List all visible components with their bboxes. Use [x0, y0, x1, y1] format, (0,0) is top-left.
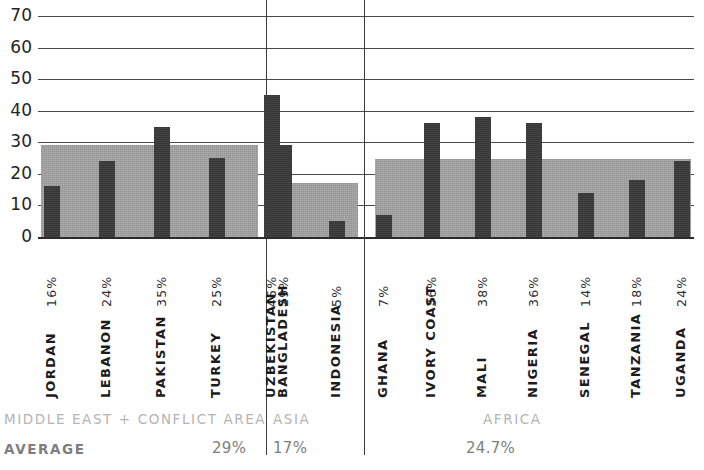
region-name-africa: AFRICA: [483, 411, 542, 427]
category-label-indonesia: INDONESIA: [329, 248, 343, 398]
bar-jordan[interactable]: [44, 186, 60, 237]
bar-ghana[interactable]: [376, 215, 392, 237]
category-label-bangladesh: BANGLADESH: [276, 248, 290, 398]
category-label-mali: MALI: [475, 248, 489, 398]
bar-mali[interactable]: [475, 117, 491, 237]
region-average-middle-east-conflict-area: 29%: [212, 439, 246, 457]
average-row-label: AVERAGE: [4, 441, 86, 457]
region-name-asia: ASIA: [273, 411, 310, 427]
gridline-50: [38, 79, 694, 80]
y-tick-label-40: 40: [10, 102, 32, 119]
category-label-turkey: TURKEY: [209, 248, 223, 398]
category-label-lebanon: LEBANON: [99, 248, 113, 398]
y-tick-label-60: 60: [10, 39, 32, 56]
gridline-30: [38, 142, 694, 143]
gridline-60: [38, 48, 694, 49]
y-tick-label-20: 20: [10, 165, 32, 182]
y-tick-label-70: 70: [10, 7, 32, 24]
gridline-0: [38, 237, 694, 239]
region-average-asia: 17%: [273, 439, 307, 457]
bar-lebanon[interactable]: [99, 161, 115, 237]
region-name-middle-east-conflict-area: MIDDLE EAST + CONFLICT AREA: [4, 411, 266, 427]
bar-uganda[interactable]: [674, 161, 690, 237]
category-labels: 16%JORDAN24%LEBANON35%PAKISTAN25%TURKEY4…: [0, 250, 704, 410]
y-tick-label-50: 50: [10, 70, 32, 87]
y-tick-label-0: 0: [21, 228, 32, 245]
category-label-ivory-coast: IVORY COAST: [424, 248, 438, 398]
category-label-jordan: JORDAN: [44, 248, 58, 398]
gridline-40: [38, 111, 694, 112]
average-band-0: [41, 145, 258, 237]
bar-turkey[interactable]: [209, 158, 225, 237]
category-label-pakistan: PAKISTAN: [154, 248, 168, 398]
footer-summary: AVERAGE MIDDLE EAST + CONFLICT AREA29%AS…: [0, 405, 704, 470]
y-axis: 706050403020100: [0, 0, 38, 250]
plot-area: [38, 0, 704, 250]
bar-indonesia[interactable]: [329, 221, 345, 237]
bar-tanzania[interactable]: [629, 180, 645, 237]
bar-pakistan[interactable]: [154, 127, 170, 238]
region-average-africa: 24.7%: [466, 439, 515, 457]
bar-senegal[interactable]: [578, 193, 594, 237]
category-label-ghana: GHANA: [376, 248, 390, 398]
bar-ivory-coast[interactable]: [424, 123, 440, 237]
bar-nigeria[interactable]: [526, 123, 542, 237]
gridline-70: [38, 16, 694, 17]
category-label-nigeria: NIGERIA: [526, 248, 540, 398]
bar-chart: 706050403020100 16%JORDAN24%LEBANON35%PA…: [0, 0, 704, 470]
y-tick-label-30: 30: [10, 133, 32, 150]
category-label-uganda: UGANDA: [674, 248, 688, 398]
category-label-senegal: SENEGAL: [578, 248, 592, 398]
y-tick-label-10: 10: [10, 196, 32, 213]
category-label-tanzania: TANZANIA: [629, 248, 643, 398]
bar-bangladesh[interactable]: [276, 145, 292, 237]
